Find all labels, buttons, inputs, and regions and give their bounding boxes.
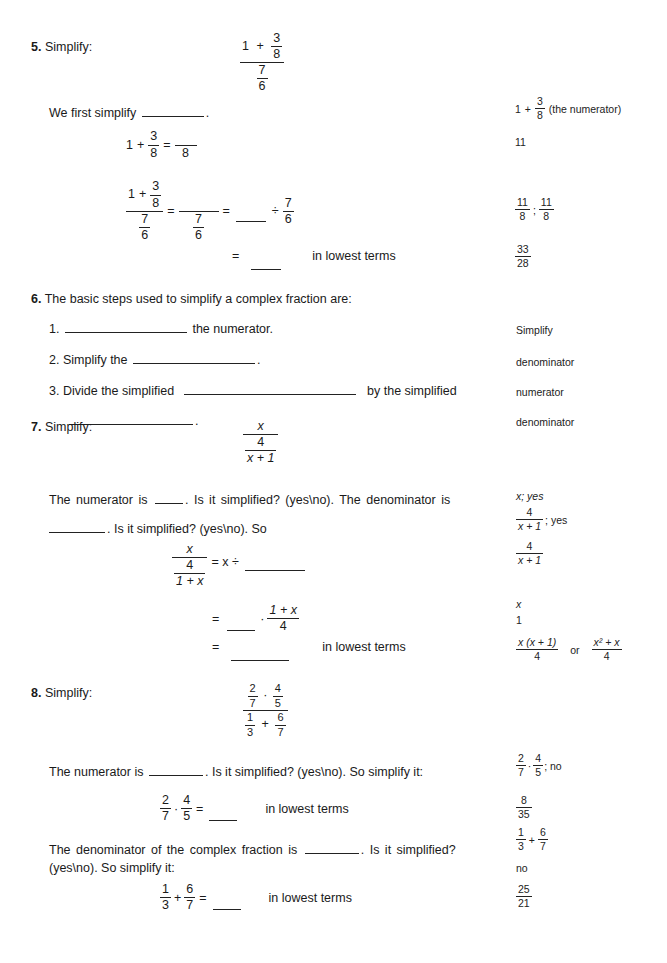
numerator: 4 xyxy=(525,541,535,552)
numerator: x (x + 1) xyxy=(518,636,556,648)
denominator: 7 xyxy=(516,767,526,778)
step-text: by the simplified xyxy=(367,384,457,398)
problem-prompt: Simplify: xyxy=(45,420,92,434)
answer-7e: 1 xyxy=(516,614,522,626)
line-text: . Is it simplified? xyxy=(361,843,456,857)
denominator: 8 xyxy=(271,48,282,61)
answer-blank[interactable] xyxy=(184,393,356,395)
step-index: 1. xyxy=(49,322,59,336)
answer-6-4: denominator xyxy=(516,416,574,428)
divide-sign: ÷ xyxy=(272,204,279,218)
answer-blank[interactable] xyxy=(65,331,187,333)
numerator: 2 xyxy=(160,794,171,807)
plus-sign: + xyxy=(525,103,531,115)
answer-blank[interactable] xyxy=(251,268,281,270)
plus-sign: + xyxy=(262,717,269,731)
plus-sign: + xyxy=(529,834,535,846)
numerator: 1 xyxy=(160,883,171,896)
line-denominator-question: The denominator of the complex fraction … xyxy=(49,843,456,857)
numerator: 6 xyxy=(184,883,195,896)
step-index: 3. xyxy=(49,384,59,398)
numerator: 6 xyxy=(538,827,548,838)
problem-number: 8. xyxy=(31,686,41,700)
problem-number: 5. xyxy=(31,40,41,54)
numerator: 11 xyxy=(539,197,554,208)
answer-blank[interactable] xyxy=(227,629,255,631)
complex-fraction: 1 + 38 76 xyxy=(240,32,284,94)
answer-blank[interactable] xyxy=(197,180,201,210)
answer-blank[interactable] xyxy=(245,569,305,571)
denominator: 5 xyxy=(181,810,192,823)
denominator: 8 xyxy=(541,211,551,222)
answer-6-3: numerator xyxy=(516,386,564,398)
step-text: . xyxy=(206,106,209,120)
multiply-dot: · xyxy=(174,802,178,816)
step-3: 3. Divide the simplified by the simplifi… xyxy=(49,384,457,398)
problem-8-header: 8. Simplify: xyxy=(31,686,92,700)
plus-sign: + xyxy=(256,39,263,53)
equation-divide: x 41 + x = x ÷ xyxy=(172,542,307,588)
denominator: 8 xyxy=(518,211,528,222)
complex-fraction: x 4x + 1 xyxy=(243,420,278,465)
answer-7b: 4x + 1 ; yes xyxy=(516,506,567,532)
numerator: 2 xyxy=(248,683,258,695)
denominator: 4 xyxy=(602,651,612,662)
problem-prompt: The basic steps used to simplify a compl… xyxy=(45,292,352,306)
problem-prompt: Simplify: xyxy=(45,40,92,54)
numerator: 25 xyxy=(516,884,532,895)
answer-blank[interactable] xyxy=(49,531,105,533)
answer-7d: x xyxy=(516,598,521,610)
denominator: 5 xyxy=(533,767,543,778)
numerator: 3 xyxy=(535,96,545,107)
problem-5-header: 5. Simplify: xyxy=(31,40,92,54)
denominator: 3 xyxy=(160,899,171,912)
answer-blank[interactable] xyxy=(231,659,289,661)
answer-blank[interactable] xyxy=(184,130,188,144)
step-1: 1. the numerator. xyxy=(49,322,273,336)
denominator: x + 1 xyxy=(247,451,274,465)
answer-blank[interactable] xyxy=(209,819,237,821)
multiply-dot: · xyxy=(528,760,532,772)
answer-blank[interactable] xyxy=(236,220,266,222)
equation-text: = x ÷ xyxy=(211,555,238,569)
answer-blank[interactable] xyxy=(155,502,183,504)
equation-multiply: = · 1 + x4 xyxy=(212,604,299,633)
answer-blank[interactable] xyxy=(133,362,255,364)
denominator: 6 xyxy=(139,229,150,242)
line-text: (yes\no). So simplify it: xyxy=(49,861,175,875)
denominator: 5 xyxy=(273,698,283,710)
equals-sign: = xyxy=(199,891,206,905)
step-2: 2. Simplify the . xyxy=(49,353,261,367)
denominator: 3 xyxy=(516,841,526,852)
answer-blank[interactable] xyxy=(305,852,359,854)
answer-blank[interactable] xyxy=(213,908,241,910)
equals-sign: = xyxy=(163,138,170,152)
step-text: Divide the simplified xyxy=(63,384,174,398)
equals-sign: = xyxy=(212,612,219,626)
multiply-dot: · xyxy=(260,612,264,626)
answer-blank[interactable] xyxy=(142,115,204,117)
step-text: Simplify the xyxy=(63,353,128,367)
numerator: 3 xyxy=(271,32,282,45)
answer-7f: x (x + 1)4 or x² + x4 xyxy=(516,636,622,662)
line-text: . Is it simplified? (yes\no). So simplif… xyxy=(205,765,423,779)
equation-numerator: 27 · 45 = in lowest terms xyxy=(160,793,349,823)
numerator: x xyxy=(187,542,193,556)
step-text: in lowest terms xyxy=(265,802,348,816)
answer-8a: 27 · 45 ; no xyxy=(516,752,562,778)
problem-7-header: 7. Simplify: xyxy=(31,420,92,434)
step-text: in lowest terms xyxy=(322,640,405,654)
step-text: . xyxy=(257,353,260,367)
equation-denominator: 13 + 67 = in lowest terms xyxy=(160,882,352,912)
numerator: 1 xyxy=(516,827,526,838)
denominator: 7 xyxy=(160,810,171,823)
answer-text: 1 xyxy=(515,103,521,115)
answer-blank[interactable] xyxy=(149,774,203,776)
denominator: 28 xyxy=(515,258,531,269)
step-divide: 1+38 76 = 76 = ÷ 76 xyxy=(126,180,294,242)
line-numerator-question: The numerator is . Is it simplified? (ye… xyxy=(49,765,423,779)
denominator: 8 xyxy=(535,110,545,121)
numerator: 4 xyxy=(255,436,266,449)
answer-5b: 11 xyxy=(515,136,526,148)
numerator: 4 xyxy=(273,683,283,695)
